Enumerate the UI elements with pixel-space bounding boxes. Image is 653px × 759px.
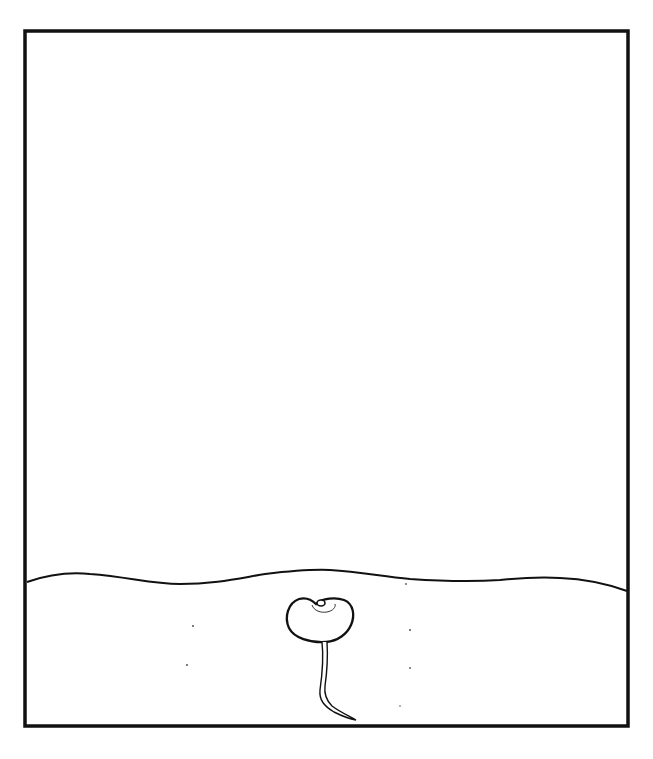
seed-icon (287, 598, 356, 720)
seed-root (320, 642, 356, 720)
drawing-svg (0, 0, 653, 759)
seed-eye (317, 600, 325, 606)
illustration: seed germinating in soil (0, 0, 653, 759)
soil-line (27, 570, 627, 591)
